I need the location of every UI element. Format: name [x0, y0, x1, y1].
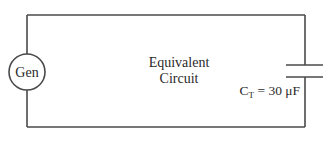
capacitor-equals: =: [254, 83, 268, 98]
diagram-title: Equivalent Circuit: [149, 55, 210, 86]
circuit-diagram: Gen CT = 30 μF Equivalent Circuit: [0, 0, 332, 142]
capacitor-symbol: C: [239, 83, 248, 98]
generator-label: Gen: [15, 65, 38, 80]
capacitor-value: 30 μF: [268, 83, 300, 98]
capacitor-label: CT = 30 μF: [239, 83, 300, 100]
capacitor-icon: [286, 65, 323, 77]
title-line-2: Circuit: [160, 71, 199, 86]
title-line-1: Equivalent: [149, 55, 210, 70]
generator: Gen: [9, 54, 45, 90]
capacitor: CT = 30 μF: [239, 65, 323, 100]
